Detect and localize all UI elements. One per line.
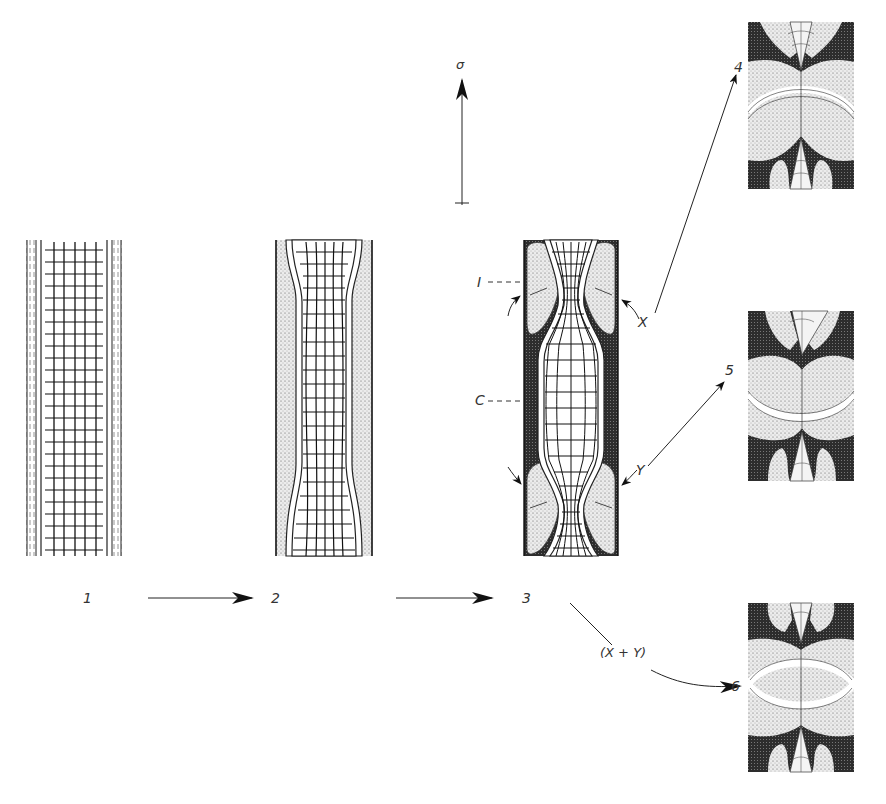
stage-1-column bbox=[26, 240, 122, 556]
stage-2-label: 2 bbox=[271, 591, 280, 605]
stage-arrows bbox=[148, 75, 740, 687]
stage-2-column bbox=[276, 240, 372, 556]
stress-arrow bbox=[455, 80, 469, 205]
annotation-x: X bbox=[638, 315, 648, 329]
detail-4-panel bbox=[748, 22, 854, 189]
annotation-i: I bbox=[477, 275, 481, 289]
annotation-c: C bbox=[475, 393, 485, 407]
stage-1-label: 1 bbox=[83, 591, 92, 605]
detail-6-label: 6 bbox=[731, 679, 740, 693]
stage-3-column bbox=[488, 240, 639, 556]
detail-6-panel bbox=[748, 603, 854, 772]
detail-5-label: 5 bbox=[725, 363, 734, 377]
stress-label: σ bbox=[456, 58, 464, 71]
detail-4-label: 4 bbox=[734, 60, 743, 74]
detail-5-panel bbox=[748, 311, 854, 481]
stage-3-label: 3 bbox=[522, 591, 531, 605]
diagram-canvas bbox=[0, 0, 886, 804]
combined-label: (X + Y) bbox=[600, 646, 646, 659]
annotation-y: Y bbox=[636, 463, 645, 477]
